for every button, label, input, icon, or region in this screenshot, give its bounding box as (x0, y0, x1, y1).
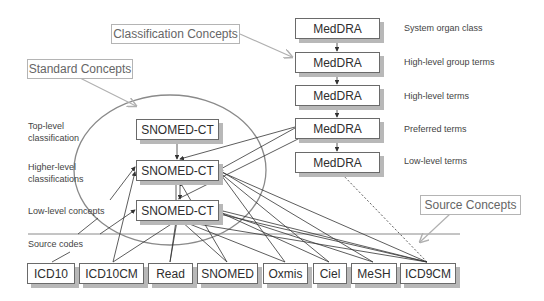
meddra-level-label-pt: Preferred terms (404, 123, 467, 135)
meddra-level-label-hlgt: High-level group terms (404, 56, 495, 68)
snomed-ct-box-higher: SNOMED-CT (136, 160, 219, 181)
source-box-read: Read (148, 263, 193, 284)
connector-lines (0, 0, 544, 301)
meddra-box-llt: MedDRA (295, 152, 380, 173)
label-higher-level-line1: Higher-level (28, 161, 84, 173)
source-box-icd10cm: ICD10CM (79, 263, 144, 284)
label-source-codes: Source codes (28, 238, 83, 250)
label-low-level-concepts: Low-level concepts (28, 205, 105, 217)
label-higher-level-classifications: Higher-level classifications (28, 161, 84, 185)
source-box-ciel: Ciel (313, 263, 347, 284)
meddra-box-hlt: MedDRA (295, 85, 380, 106)
meddra-box-pt: MedDRA (295, 118, 380, 139)
source-box-oxmis: Oxmis (263, 263, 308, 284)
source-concepts-callout: Source Concepts (420, 195, 521, 215)
standard-concepts-callout: Standard Concepts (27, 59, 133, 79)
meddra-level-label-soc: System organ class (404, 22, 483, 34)
snomed-ct-box-top: SNOMED-CT (136, 119, 219, 140)
label-top-level-line2: classification (28, 132, 79, 144)
label-higher-level-line2: classifications (28, 173, 84, 185)
label-top-level-line1: Top-level (28, 120, 79, 132)
source-box-mesh: MeSH (351, 263, 397, 284)
classification-concepts-callout: Classification Concepts (111, 24, 240, 44)
source-box-icd9cm: ICD9CM (400, 263, 456, 284)
snomed-ct-box-low: SNOMED-CT (136, 200, 219, 221)
vocabulary-hierarchy-diagram: Classification Concepts Standard Concept… (0, 0, 544, 301)
source-box-icd10: ICD10 (27, 263, 75, 284)
meddra-box-soc: MedDRA (295, 18, 380, 39)
meddra-level-label-hlt: High-level terms (404, 90, 469, 102)
meddra-box-hlgt: MedDRA (295, 52, 380, 73)
label-top-level-classification: Top-level classification (28, 120, 79, 144)
meddra-level-label-llt: Low-level terms (404, 155, 467, 167)
source-box-snomed: SNOMED (197, 263, 258, 284)
